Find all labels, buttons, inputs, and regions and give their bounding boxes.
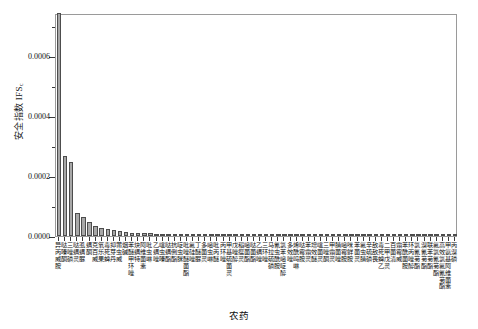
bar	[81, 217, 85, 236]
x-axis-tick-label: 毒死蜱	[104, 242, 110, 263]
bar	[215, 234, 219, 236]
bar	[57, 13, 61, 236]
x-axis-tick-label: 苯霜灵	[305, 242, 311, 263]
bar	[410, 234, 414, 236]
bar	[69, 162, 73, 236]
bar	[203, 234, 207, 236]
x-axis-tick-label: 抑芽丹	[110, 242, 116, 263]
bar	[294, 234, 298, 236]
x-axis-tick-label: 哒螨酯	[165, 242, 171, 263]
x-axis-tick-label: 三环唑	[262, 242, 268, 263]
bar	[264, 234, 268, 236]
x-axis-tick-label: 烟碱	[122, 242, 128, 256]
y-axis-tick-label: 0.0004	[4, 112, 50, 121]
bar	[154, 234, 158, 236]
x-axis-tick-label: 腈菌唑	[335, 242, 341, 263]
x-axis-tick-label: 苯酰菌胺	[402, 242, 408, 270]
x-axis-tick-label: 甲霜灵	[329, 242, 335, 263]
x-axis-tick-label: 毒死蜱乙	[378, 242, 384, 270]
bar	[142, 233, 146, 236]
bar	[209, 234, 213, 236]
bar	[99, 228, 103, 236]
bar	[374, 234, 378, 236]
x-axis-tick-label: 甲氨基阿维菌素	[445, 242, 451, 290]
x-axis-tick-label: 吡丙醚	[213, 242, 219, 263]
x-axis-tick-label: 百菌清	[390, 242, 396, 263]
x-axis-tick-label: 嘧菌酯	[244, 242, 250, 263]
y-axis-tick-label: 0.0000	[4, 232, 50, 241]
x-axis-tick-label: 丙溴磷	[451, 242, 457, 263]
x-axis-tick-label: 苯醚甲环唑	[128, 242, 134, 277]
bar	[124, 232, 128, 236]
x-axis-tick-label: 烯酰吗啉	[293, 242, 299, 270]
bar	[160, 234, 164, 236]
x-axis-tick-label: 哒霉胺	[299, 242, 305, 263]
bar	[398, 234, 402, 236]
x-axis-tick-label: 联苯菊酯	[427, 242, 433, 270]
bar	[246, 234, 250, 236]
x-axis-tick-label: 氯苯嘧啶醇	[280, 242, 286, 277]
x-axis-tick-label: 噻虫嗪	[159, 242, 165, 263]
x-axis-tick-label: 嘧虫啉	[207, 242, 213, 263]
bar	[63, 156, 67, 236]
x-axis-tick-label: 啶虫脒	[177, 242, 183, 263]
bar	[392, 234, 396, 236]
bar	[75, 213, 79, 236]
x-axis-tick-label: 阿维菌素	[140, 242, 146, 270]
bar	[87, 222, 91, 236]
bar	[434, 234, 438, 236]
x-axis-tick-label: 稻瘟灵	[238, 242, 244, 263]
bar	[313, 234, 317, 236]
bar	[416, 234, 420, 236]
bar	[130, 233, 134, 236]
x-axis-tick-label: 氟虫腈	[360, 242, 366, 263]
x-axis-tick-label: 马拉硫磷	[268, 242, 274, 270]
x-axis-tick-label: 氰虫酰胺	[274, 242, 280, 270]
x-axis-tick-label: 戊唑醇	[232, 242, 238, 263]
bar	[349, 234, 353, 236]
bar	[106, 229, 110, 236]
bar	[276, 234, 280, 236]
x-axis-tick-label: 氧乐果	[98, 242, 104, 263]
bar	[166, 234, 170, 236]
x-axis-tick-labels: 异丙威胺哒嗪酮三唑磷哒螨灵虱螨脲螨酮克百威氧乐果毒死蜱抑芽丹莆虫威烟碱苯醚甲环唑…	[55, 242, 457, 310]
x-axis-tick-label: 丁醚脲	[195, 242, 201, 263]
bar-series	[56, 15, 456, 236]
x-axis-tick-label: 乙螨唑	[256, 242, 262, 263]
bar	[422, 234, 426, 236]
x-axis-tick-label: 嘧霉胺	[341, 242, 347, 263]
bar	[258, 234, 262, 236]
bar	[136, 233, 140, 236]
bar	[355, 234, 359, 236]
bar	[428, 234, 432, 236]
x-axis-tick-label: 多菌灵	[201, 242, 207, 263]
bar	[227, 234, 231, 236]
x-axis-title: 农药	[0, 308, 478, 322]
bar	[93, 226, 97, 236]
x-axis-tick-label: 甲基硫菌灵	[226, 242, 232, 277]
x-axis-tick-label: 虱螨脲	[79, 242, 85, 263]
bar	[197, 234, 201, 236]
bar	[288, 234, 292, 236]
x-axis-tick-label: 增效醚	[311, 242, 317, 263]
y-axis-tick-label: 0.0006	[4, 52, 50, 61]
x-axis-tick-label: 霜霉威	[396, 242, 402, 263]
x-axis-tick-label: 哒螨灵	[73, 242, 79, 263]
x-axis-tick-label: 三唑磷	[67, 242, 73, 263]
bar	[221, 234, 225, 236]
x-axis-tick-label: 辛硫磷	[366, 242, 372, 263]
x-axis-tick-label: 哒嗪酮	[61, 242, 67, 263]
plot-area	[55, 14, 457, 237]
bar	[380, 234, 384, 236]
x-axis-tick-label: 抗倒酯	[171, 242, 177, 263]
x-axis-tick-label: 高效氯氟氰菊酯	[439, 242, 445, 290]
bar	[240, 234, 244, 236]
bar	[325, 234, 329, 236]
x-axis-tick-label: 咪鲜胺	[347, 242, 353, 263]
x-axis-tick-label: 氟硅唑	[189, 242, 195, 263]
x-axis-tick-label: 环丙唑醇	[408, 242, 414, 270]
bar	[118, 231, 122, 236]
bar	[185, 234, 189, 236]
bar	[404, 234, 408, 236]
bar	[319, 234, 323, 236]
